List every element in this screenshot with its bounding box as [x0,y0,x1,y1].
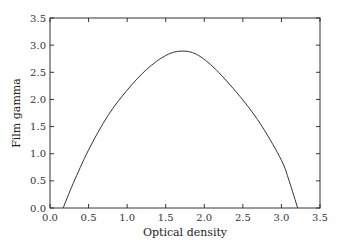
x-tick-label: 1.5 [158,212,174,223]
x-tick-label: 2.0 [196,212,212,223]
x-tick-label: 1.0 [119,212,135,223]
y-tick-label: 1.5 [30,121,46,132]
x-tick-label: 3.0 [273,212,289,223]
y-tick-label: 3.0 [30,40,46,51]
x-tick-label: 0.5 [81,212,97,223]
chart: 0.00.51.01.52.02.53.03.50.00.51.01.52.02… [0,0,341,252]
y-tick-label: 0.5 [30,175,46,186]
x-tick-label: 0.0 [42,212,58,223]
plot-frame [50,18,320,208]
x-tick-label: 2.5 [235,212,251,223]
x-tick-label: 3.5 [312,212,328,223]
data-line [63,51,298,208]
y-axis-label: Film gamma [10,78,23,148]
y-tick-label: 2.5 [30,67,46,78]
y-tick-label: 2.0 [30,94,46,105]
axis-ticks: 0.00.51.01.52.02.53.03.50.00.51.01.52.02… [30,13,328,224]
x-axis-label: Optical density [143,226,228,239]
y-tick-label: 0.0 [30,203,46,214]
y-tick-label: 1.0 [30,148,46,159]
y-tick-label: 3.5 [30,13,46,24]
